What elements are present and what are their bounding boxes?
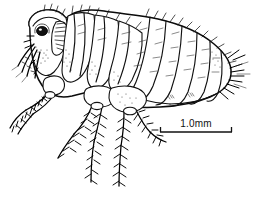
- eye-highlight: [39, 28, 42, 30]
- midleg: [58, 86, 115, 184]
- hindleg-joint: [124, 107, 137, 115]
- eye-icon: [37, 26, 48, 35]
- scale-bar-label: 1.0mm: [160, 118, 232, 129]
- midleg-tibia: [58, 134, 74, 158]
- hindleg-tarsus-b: [150, 132, 166, 142]
- hindleg-femur: [121, 112, 124, 146]
- foreleg-joint: [45, 92, 55, 99]
- hindleg-femur-b: [136, 110, 150, 132]
- foreleg-spines: [12, 92, 52, 132]
- hindleg-tibia: [119, 146, 121, 186]
- figure-root: 1.0mm: [0, 0, 258, 198]
- body-group: [10, 4, 250, 186]
- foreleg: [10, 76, 65, 134]
- flea-line-drawing: [0, 0, 258, 198]
- midleg-joint: [91, 102, 103, 109]
